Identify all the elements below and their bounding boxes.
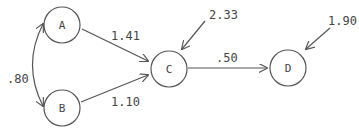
residual-label-d: 1.90: [328, 14, 357, 28]
path-diagram: 1.41 1.10 .50 .80 2.33 1.90 A B C D: [0, 0, 359, 136]
edge-label-a-c: 1.41: [111, 29, 140, 43]
edge-a-b-correlation: [33, 24, 44, 106]
edge-label-a-b: .80: [7, 72, 29, 86]
residual-arrow-c: [182, 21, 205, 49]
residual-label-c: 2.33: [209, 8, 238, 22]
node-label-a: A: [59, 19, 66, 32]
node-d: D: [270, 50, 306, 86]
node-c: C: [151, 51, 187, 87]
node-label-b: B: [59, 102, 66, 115]
node-a: A: [44, 7, 80, 43]
node-b: B: [44, 90, 80, 126]
node-label-c: C: [166, 63, 173, 76]
residual-arrow-d: [306, 28, 330, 49]
edge-label-c-d: .50: [216, 51, 238, 65]
edge-label-b-c: 1.10: [111, 95, 140, 109]
node-label-d: D: [285, 62, 292, 75]
